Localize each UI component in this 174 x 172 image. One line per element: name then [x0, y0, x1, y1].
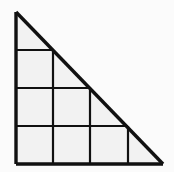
figure-canvas	[0, 0, 174, 172]
right-triangle-grid-diagram	[0, 0, 174, 172]
